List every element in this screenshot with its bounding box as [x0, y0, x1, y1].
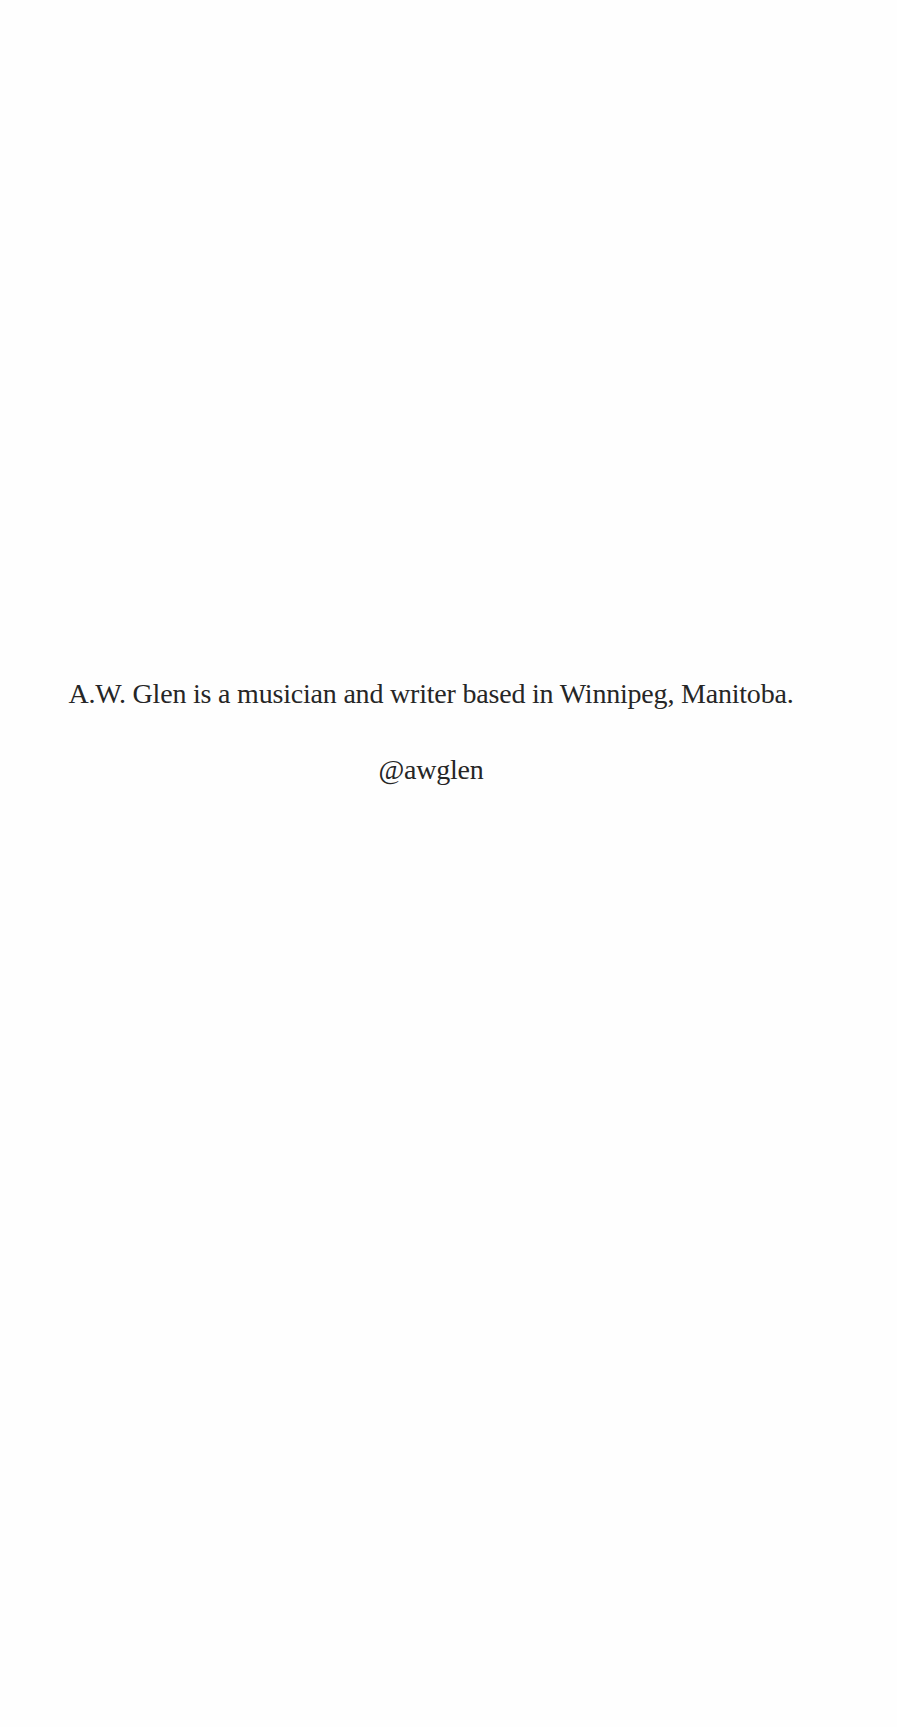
social-handle: @awglen: [0, 752, 862, 788]
author-bio-page: A.W. Glen is a musician and writer based…: [0, 0, 897, 1727]
author-bio-text: A.W. Glen is a musician and writer based…: [0, 676, 862, 712]
